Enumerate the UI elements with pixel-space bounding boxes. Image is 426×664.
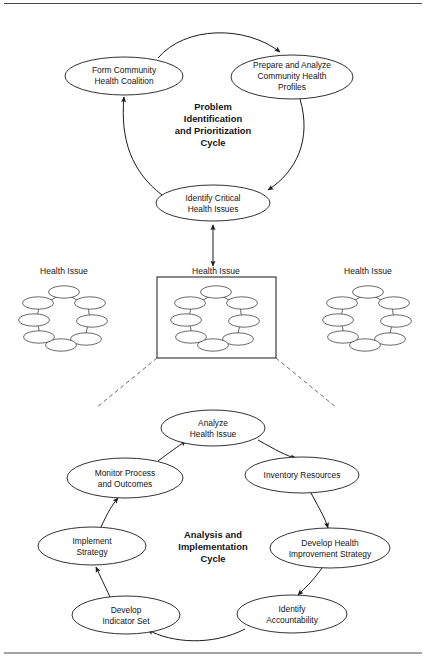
mini-cycle-node — [23, 297, 54, 309]
middle-row-group: Health Issue Health Issue Health Issue — [19, 266, 412, 358]
node-label-monitor-line1: Monitor Process — [95, 468, 156, 478]
zoom-line-left — [96, 358, 157, 408]
node-label-develop-strategy-line1: Develop Health — [301, 538, 359, 548]
mini-cycle-right[interactable] — [323, 286, 412, 351]
bottom-cycle-title-line3: Cycle — [200, 553, 225, 564]
node-label-analyze-line1: Analyze — [198, 418, 228, 428]
node-label-indicator-line2: Indicator Set — [102, 616, 150, 626]
edge-profiles-to-critical — [268, 99, 304, 190]
node-label-analyze-line2: Health Issue — [190, 429, 237, 439]
edge-critical-to-coalition — [123, 97, 162, 195]
node-identify-critical-health-issues[interactable] — [156, 185, 270, 221]
mini-cycle-node — [171, 314, 202, 326]
mini-cycle-node — [77, 315, 108, 327]
node-label-form-coalition-line2: Health Coalition — [94, 76, 153, 86]
bottom-cycle-group: Analyze Health Issue Inventory Resources… — [38, 410, 390, 641]
top-cycle-title-line1: Problem — [194, 101, 232, 112]
edge-monitor-to-analyze — [158, 441, 186, 461]
mini-cycle-node — [323, 314, 354, 326]
mini-cycle-node — [19, 314, 50, 326]
node-label-accountability-line2: Accountability — [266, 615, 318, 625]
mini-cycle-node — [379, 297, 410, 309]
mini-cycle-node — [49, 286, 80, 298]
cluster-label-right: Health Issue — [344, 266, 392, 276]
node-develop-indicator-set[interactable] — [72, 596, 180, 634]
node-identify-accountability[interactable] — [237, 595, 347, 633]
node-implement-strategy[interactable] — [38, 527, 146, 565]
edge-inventory-to-develop-strategy — [311, 493, 328, 528]
edge-implement-to-monitor — [101, 498, 118, 527]
edge-indicator-set-to-implement — [96, 567, 110, 597]
edge-coalition-to-profiles — [158, 33, 280, 58]
node-label-implement-line1: Implement — [72, 536, 112, 546]
mini-cycle-node — [229, 315, 260, 327]
mini-cycle-center[interactable] — [171, 286, 260, 351]
bottom-cycle-title-line1: Analysis and — [184, 529, 242, 540]
mini-cycle-node — [328, 331, 359, 343]
top-cycle-group: Form Community Health Coalition Prepare … — [65, 33, 353, 221]
cluster-label-left: Health Issue — [40, 266, 88, 276]
mini-cycle-node — [75, 297, 106, 309]
mini-cycle-node — [24, 331, 55, 343]
mini-cycle-left[interactable] — [19, 286, 108, 351]
mini-cycle-node — [381, 315, 412, 327]
node-label-monitor-line2: and Outcomes — [98, 479, 152, 489]
cluster-label-center: Health Issue — [192, 266, 240, 276]
node-label-implement-line2: Strategy — [76, 547, 108, 557]
edge-accountability-to-indicator-set — [148, 629, 245, 641]
diagram-svg: Form Community Health Coalition Prepare … — [0, 0, 426, 664]
edge-analyze-to-inventory — [258, 440, 296, 458]
figure-canvas: Form Community Health Coalition Prepare … — [0, 0, 426, 664]
node-analyze-health-issue[interactable] — [161, 410, 265, 446]
node-label-profiles-line3: Profiles — [278, 82, 306, 92]
node-label-identify-critical-line2: Health Issues — [188, 204, 239, 214]
node-label-identify-critical-line1: Identify Critical — [186, 193, 241, 203]
node-monitor-process-and-outcomes[interactable] — [67, 458, 183, 498]
zoom-line-right — [276, 358, 337, 408]
node-label-profiles-line2: Community Health — [258, 71, 327, 81]
node-label-develop-strategy-line2: Improvement Strategy — [289, 549, 372, 559]
node-label-accountability-line1: Identify — [278, 604, 306, 614]
node-label-inventory: Inventory Resources — [264, 470, 341, 480]
mini-cycle-node — [176, 331, 207, 343]
mini-cycle-node — [201, 286, 232, 298]
bottom-cycle-title-line2: Implementation — [178, 541, 248, 552]
top-cycle-title-line3: and Prioritization — [175, 125, 252, 136]
node-develop-health-improvement-strategy[interactable] — [270, 528, 390, 568]
mini-cycle-node — [175, 297, 206, 309]
node-label-profiles-line1: Prepare and Analyze — [253, 60, 331, 70]
mini-cycle-node — [353, 286, 384, 298]
mini-cycle-node — [327, 297, 358, 309]
node-label-indicator-line1: Develop — [111, 605, 142, 615]
edge-strategy-to-accountability — [298, 568, 322, 595]
top-cycle-title-line2: Identification — [184, 113, 243, 124]
top-cycle-title-line4: Cycle — [200, 137, 225, 148]
node-label-form-coalition-line1: Form Community — [92, 65, 157, 75]
mini-cycle-node — [227, 297, 258, 309]
